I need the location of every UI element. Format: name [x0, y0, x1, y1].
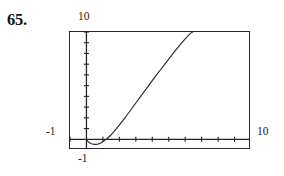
y-axis-group: [84, 32, 89, 149]
function-curve: [86, 32, 192, 144]
x-axis-min-label: -1: [78, 153, 88, 165]
graph-viewing-window: [69, 31, 250, 149]
y-axis-min-label: -1: [46, 126, 56, 138]
problem-number: 65.: [7, 12, 27, 29]
plot-area: [70, 32, 250, 149]
textbook-figure: 65. 10 -1 -1 10: [0, 0, 284, 176]
y-axis-max-label: 10: [78, 11, 90, 23]
x-axis-group: [70, 137, 250, 142]
x-axis-max-label: 10: [257, 126, 269, 138]
